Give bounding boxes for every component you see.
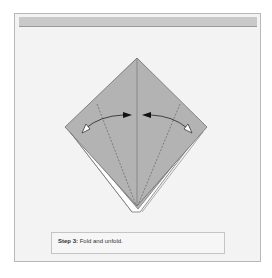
step-label: Step 3: bbox=[58, 238, 78, 244]
step-instruction: Fold and unfold. bbox=[80, 238, 123, 244]
step-caption: Step 3: Fold and unfold. bbox=[51, 232, 225, 254]
